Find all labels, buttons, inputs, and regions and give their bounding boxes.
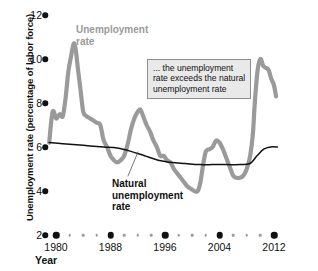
annotation-callout: ... the unemployment rate exceeds the na… — [147, 59, 251, 99]
series-label-natural-line2: unemployment — [112, 190, 183, 201]
x-tick-dot-minor-1984 — [82, 234, 85, 237]
x-tick-dot-minor-1990 — [123, 234, 126, 237]
label-leader-lines — [128, 152, 138, 176]
x-tick-dot-minor-1982 — [68, 234, 71, 237]
series-label-unemployment-rate: Unemployment rate — [76, 24, 160, 47]
y-tick-label-2: 2 — [20, 229, 42, 241]
x-tick-dot-minor-1992 — [136, 234, 139, 237]
x-tick-label-1996: 1996 — [142, 241, 188, 253]
x-axis-title: Year — [35, 254, 57, 266]
y-tick-dot-2 — [42, 232, 48, 238]
y-tick-label-12: 12 — [20, 9, 42, 21]
x-tick-dot-2012 — [271, 232, 278, 239]
x-tick-dot-minor-1998 — [177, 234, 180, 237]
y-tick-label-6: 6 — [20, 141, 42, 153]
series-label-natural-rate: Natural unemployment rate — [112, 178, 198, 213]
y-tick-label-4: 4 — [20, 185, 42, 197]
y-tick-dot-4 — [42, 188, 48, 194]
x-tick-dot-1988 — [107, 232, 114, 239]
y-tick-dot-10 — [42, 56, 48, 62]
x-tick-dot-minor-1994 — [150, 234, 153, 237]
x-tick-label-2004: 2004 — [197, 241, 243, 253]
y-tick-dot-8 — [42, 100, 48, 106]
series-label-unemployment-line2: rate — [76, 36, 94, 47]
series-label-natural-line1: Natural — [112, 178, 146, 189]
y-tick-dot-6 — [42, 144, 48, 150]
x-tick-dot-minor-2006 — [232, 234, 235, 237]
y-tick-label-8: 8 — [20, 97, 42, 109]
x-tick-dot-minor-2010 — [259, 234, 262, 237]
x-tick-dot-1980 — [53, 232, 60, 239]
x-tick-dot-minor-2002 — [205, 234, 208, 237]
y-tick-dot-12 — [42, 12, 48, 18]
x-tick-dot-minor-1986 — [96, 234, 99, 237]
x-tick-label-1980: 1980 — [33, 241, 79, 253]
x-tick-dot-minor-2008 — [245, 234, 248, 237]
y-tick-label-10: 10 — [20, 53, 42, 65]
x-tick-dot-1996 — [162, 232, 169, 239]
x-tick-dot-minor-2000 — [191, 234, 194, 237]
x-tick-label-2012: 2012 — [251, 241, 297, 253]
x-tick-label-1988: 1988 — [88, 241, 134, 253]
series-label-unemployment-line1: Unemployment — [76, 24, 148, 35]
natural-rate-leader-line — [128, 152, 138, 176]
x-tick-dot-2004 — [216, 232, 223, 239]
series-label-natural-line3: rate — [112, 201, 130, 212]
unemployment-rate-chart: Unemployment rate (percentage of labor f… — [0, 0, 318, 271]
